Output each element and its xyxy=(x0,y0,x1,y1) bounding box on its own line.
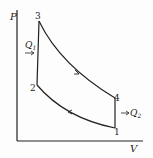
v-axis-label: V xyxy=(130,143,139,154)
p-axis-label: P xyxy=(9,11,17,22)
process-2-3 xyxy=(37,21,39,85)
q2-arrow-icon xyxy=(121,111,129,115)
pv-diagram: P V 3 2 4 1 Q1 Q2 xyxy=(0,0,153,158)
point-1-label: 1 xyxy=(114,127,120,137)
point-2-label: 2 xyxy=(30,83,36,93)
q1-arrow-icon xyxy=(25,51,34,55)
process-1-2 xyxy=(37,85,115,128)
q1-label: Q1 xyxy=(25,40,36,51)
process-3-4 xyxy=(39,21,115,98)
point-3-label: 3 xyxy=(35,11,41,21)
pv-diagram-svg: P V 3 2 4 1 Q1 Q2 xyxy=(0,0,153,158)
point-4-label: 4 xyxy=(114,93,120,103)
q2-label: Q2 xyxy=(130,108,141,119)
